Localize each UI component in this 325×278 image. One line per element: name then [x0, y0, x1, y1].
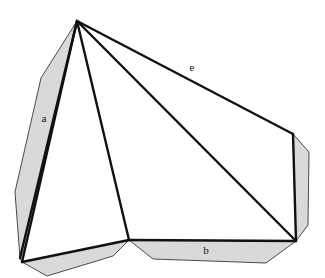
figure-canvas: a e b	[0, 0, 325, 278]
label-b: b	[203, 244, 209, 256]
label-e: e	[190, 61, 195, 73]
edge-bottom-mid-to-bottom-right	[129, 240, 296, 241]
polyhedron-diagram: a e b	[0, 0, 325, 278]
label-a: a	[42, 112, 47, 124]
